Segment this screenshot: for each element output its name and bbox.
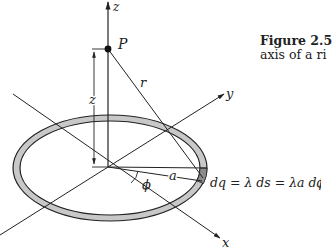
radius-a-line (108, 167, 202, 181)
point-p-dot (105, 46, 112, 53)
angle-phi-label: ϕ (142, 177, 151, 192)
distance-r-label: r (140, 75, 147, 90)
z-axis-label: z (112, 0, 120, 14)
point-p-label: P (117, 36, 128, 52)
height-z-label: z (88, 92, 96, 107)
reference-radius-line (108, 167, 207, 168)
figure-caption: Figure 2.5 axis of a ri (260, 34, 336, 62)
charge-element-equation: dq = λ ds = λa dϕ (210, 175, 321, 190)
y-axis-label: y (225, 86, 234, 101)
x-axis-label: x (222, 235, 230, 249)
distance-r-line (108, 49, 203, 178)
radius-a-label: a (169, 168, 177, 183)
caption-text: axis of a ri (260, 47, 326, 62)
caption-title: Figure 2.5 (260, 33, 332, 48)
